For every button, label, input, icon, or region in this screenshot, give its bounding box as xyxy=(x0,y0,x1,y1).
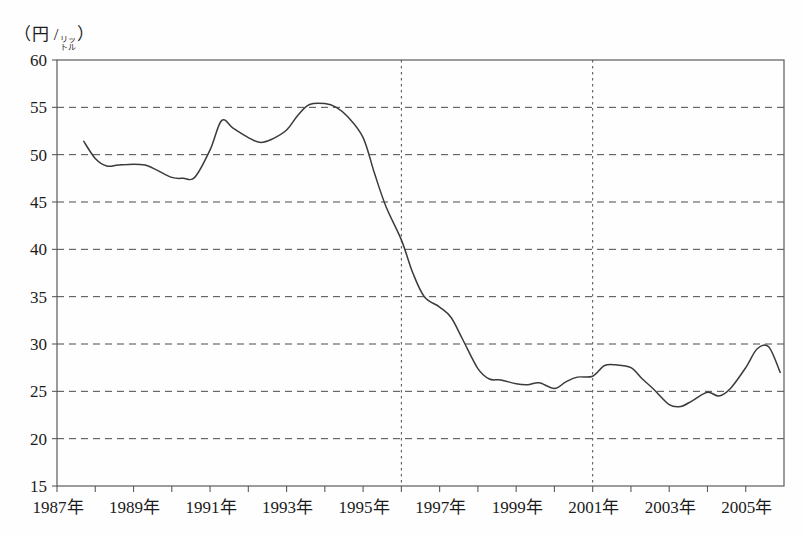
y-tick-label-15: 15 xyxy=(30,477,47,496)
x-tick-label-1987: 1987年 xyxy=(33,498,84,517)
x-tick-label-1993: 1993年 xyxy=(262,498,313,517)
x-tick-label-1991: 1991年 xyxy=(186,498,237,517)
y-tick-label-25: 25 xyxy=(30,382,47,401)
chart-container: （円 /リットル） 60555045403530252015 1987年1989… xyxy=(0,0,802,536)
grid-lines xyxy=(57,107,784,438)
x-tick-label-2003: 2003年 xyxy=(645,498,696,517)
plot-border xyxy=(57,60,784,486)
y-tick-label-55: 55 xyxy=(30,98,47,117)
y-tick-label-35: 35 xyxy=(30,288,47,307)
y-tick-label-60: 60 xyxy=(30,51,47,70)
y-tick-label-50: 50 xyxy=(30,146,47,165)
y-tick-label-45: 45 xyxy=(30,193,47,212)
x-tick-label-2001: 2001年 xyxy=(568,498,619,517)
x-axis-tick-labels: 1987年1989年1991年1993年1995年1997年1999年2001年… xyxy=(33,498,773,517)
y-tick-label-20: 20 xyxy=(30,430,47,449)
vertical-marker-lines xyxy=(401,60,592,486)
series-line-0 xyxy=(84,103,780,407)
x-tick-label-1997: 1997年 xyxy=(415,498,466,517)
x-axis-ticks xyxy=(57,486,746,492)
x-tick-label-1989: 1989年 xyxy=(109,498,160,517)
y-tick-label-40: 40 xyxy=(30,240,47,259)
y-tick-label-30: 30 xyxy=(30,335,47,354)
y-axis-tick-labels: 60555045403530252015 xyxy=(30,51,57,496)
x-tick-label-1999: 1999年 xyxy=(492,498,543,517)
x-tick-label-1995: 1995年 xyxy=(339,498,390,517)
chart-svg: 60555045403530252015 1987年1989年1991年1993… xyxy=(0,0,802,536)
x-tick-label-2005: 2005年 xyxy=(721,498,772,517)
plot-frame xyxy=(57,60,784,486)
series-lines xyxy=(84,103,780,407)
